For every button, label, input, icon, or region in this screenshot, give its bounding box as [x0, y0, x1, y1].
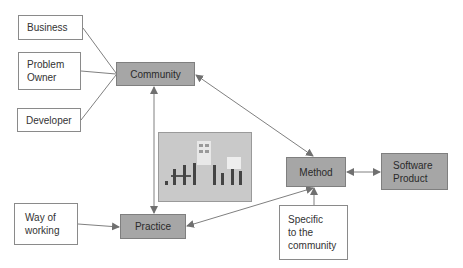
- node-developer: Developer: [17, 108, 81, 132]
- node-practice: Practice: [120, 214, 186, 239]
- node-business: Business: [18, 15, 83, 40]
- node-practice-label: Practice: [135, 220, 171, 233]
- node-specific-label: Specific to the community: [288, 213, 336, 252]
- node-business-label: Business: [27, 21, 68, 34]
- edge-way-practice: [78, 224, 119, 227]
- team-illustration-image: [158, 132, 252, 202]
- edge-problemowner-community: [81, 71, 116, 74]
- node-problem-owner-label: Problem Owner: [27, 58, 64, 84]
- people-working-icon: [159, 133, 251, 201]
- edge-business-community: [83, 28, 116, 73]
- node-software-product: Software Product: [381, 153, 448, 190]
- node-method: Method: [286, 157, 346, 187]
- node-community-label: Community: [130, 68, 181, 81]
- node-community: Community: [116, 62, 195, 86]
- node-developer-label: Developer: [26, 114, 72, 127]
- node-way-of-working-label: Way of working: [25, 211, 59, 237]
- edge-developer-community: [81, 75, 116, 120]
- node-problem-owner: Problem Owner: [18, 52, 81, 90]
- node-specific-to-community: Specific to the community: [279, 205, 348, 260]
- node-method-label: Method: [299, 166, 332, 179]
- node-way-of-working: Way of working: [14, 203, 78, 245]
- node-software-product-label: Software Product: [393, 159, 432, 185]
